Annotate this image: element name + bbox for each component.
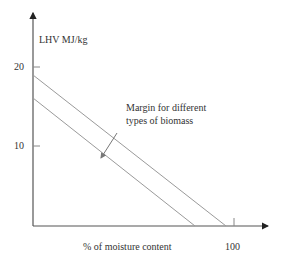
y-axis-label: LHV MJ/kg [39, 34, 87, 46]
ytick-label-20: 20 [14, 61, 24, 73]
upper-bound-line [33, 75, 226, 226]
annotation-text-line2: types of biomass [126, 115, 193, 127]
x-axis-label: % of moisture content [83, 241, 172, 253]
xtick-label-100: 100 [225, 241, 240, 253]
ytick-label-10: 10 [14, 140, 24, 152]
annotation-arrow [101, 133, 117, 158]
annotation-text-line1: Margin for different [126, 102, 206, 114]
